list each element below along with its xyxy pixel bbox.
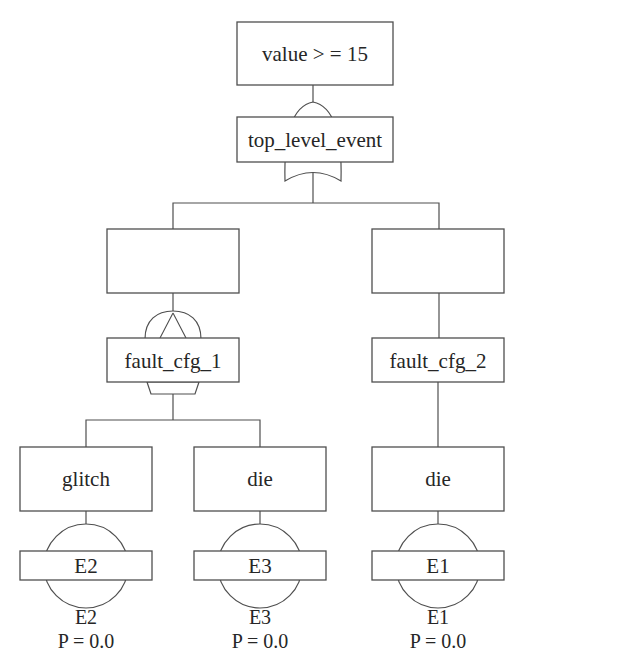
die-mid-label: die <box>247 467 273 491</box>
die-mid-node: die <box>194 447 326 511</box>
basic-event-e3: E3 E3 P = 0.0 <box>194 524 326 652</box>
intermediate-event-box-left <box>107 229 239 293</box>
event-probability-e2: P = 0.0 <box>58 630 115 652</box>
event-id-label-e1: E1 <box>426 554 449 578</box>
and-gate-arch <box>145 311 201 339</box>
fault-cfg-1-label: fault_cfg_1 <box>125 349 222 373</box>
top-level-event-label: top_level_event <box>248 128 382 152</box>
event-probability-e3: P = 0.0 <box>232 630 289 652</box>
basic-event-e1: E1 E1 P = 0.0 <box>372 524 504 652</box>
glitch-label: glitch <box>62 467 110 491</box>
event-id-label-e2: E2 <box>74 554 97 578</box>
condition-node: value > = 15 <box>237 22 393 85</box>
glitch-node: glitch <box>20 447 152 511</box>
top-level-event-node: top_level_event <box>237 117 393 162</box>
intermediate-event-box-right <box>372 229 504 293</box>
event-caption-e3: E3 <box>249 606 271 628</box>
event-id-label-e3: E3 <box>248 554 271 578</box>
fault-cfg-2-node: fault_cfg_2 <box>372 338 504 382</box>
fault-cfg-2-label: fault_cfg_2 <box>390 349 487 373</box>
and-gate-base <box>147 382 199 394</box>
event-probability-e1: P = 0.0 <box>410 630 467 652</box>
fault-cfg-1-node: fault_cfg_1 <box>107 338 239 382</box>
fault-tree-diagram: value > = 15 top_level_event fault_cfg_1… <box>0 0 630 669</box>
branch-splitter-top <box>173 203 439 230</box>
die-right-node: die <box>372 447 504 511</box>
basic-event-e2: E2 E2 P = 0.0 <box>20 524 152 652</box>
die-right-label: die <box>425 467 451 491</box>
condition-label: value > = 15 <box>262 42 368 66</box>
fault-tree-page: value > = 15 top_level_event fault_cfg_1… <box>0 0 630 669</box>
branch-splitter-left <box>86 420 260 447</box>
event-caption-e1: E1 <box>427 606 449 628</box>
event-caption-e2: E2 <box>75 606 97 628</box>
